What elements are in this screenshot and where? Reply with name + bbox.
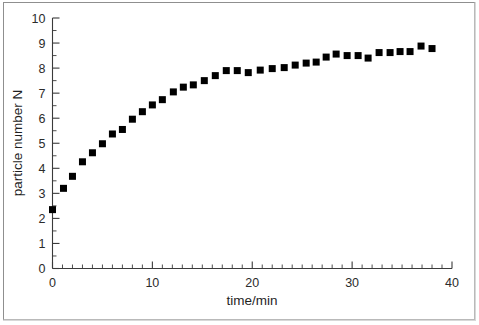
x-tick-label: 0	[49, 276, 56, 290]
x-tick-label: 40	[445, 276, 459, 290]
data-point-marker	[234, 67, 241, 74]
data-point-marker	[139, 108, 146, 115]
y-tick-label: 2	[39, 212, 46, 226]
data-point-marker	[407, 48, 414, 55]
data-point-marker	[355, 52, 362, 59]
data-point-marker	[387, 49, 394, 56]
data-point-marker	[223, 67, 230, 74]
data-point-marker	[281, 64, 288, 71]
y-tick-label: 8	[39, 62, 46, 76]
y-tick-label: 5	[39, 137, 46, 151]
data-point-marker	[190, 81, 197, 88]
data-point-marker	[201, 77, 208, 84]
data-point-marker	[60, 185, 67, 192]
data-point-marker	[69, 173, 76, 180]
data-point-marker	[313, 59, 320, 66]
y-tick-label: 0	[39, 262, 46, 276]
scatter-plot-svg: 012345678910 010203040 time/min particle…	[0, 0, 479, 325]
y-tick-label: 9	[39, 37, 46, 51]
x-tick-label: 10	[145, 276, 159, 290]
data-point-marker	[129, 116, 136, 123]
data-point-marker	[365, 55, 372, 62]
data-point-marker	[245, 69, 252, 76]
data-point-marker	[429, 45, 436, 52]
data-point-marker	[303, 60, 310, 67]
data-point-marker	[49, 206, 56, 213]
y-tick-label: 6	[39, 112, 46, 126]
data-point-marker	[89, 149, 96, 156]
y-tick-label: 4	[39, 162, 46, 176]
data-point-marker	[333, 51, 340, 58]
data-point-marker	[159, 96, 166, 103]
data-point-marker	[323, 54, 330, 61]
data-point-marker	[212, 72, 219, 79]
y-axis: 012345678910	[32, 12, 60, 277]
data-point-series	[49, 43, 436, 214]
data-point-marker	[376, 49, 383, 56]
data-point-marker	[397, 48, 404, 55]
x-axis-title: time/min	[226, 293, 277, 308]
data-point-marker	[344, 52, 351, 59]
data-point-marker	[269, 65, 276, 72]
data-point-marker	[170, 88, 177, 95]
chart-canvas: 012345678910 010203040 time/min particle…	[0, 0, 479, 325]
data-point-marker	[109, 130, 116, 137]
y-axis-title: particle number N	[10, 90, 25, 197]
figure-page: 012345678910 010203040 time/min particle…	[0, 0, 479, 325]
data-point-marker	[292, 62, 299, 69]
y-tick-label: 1	[39, 237, 46, 251]
y-tick-label: 7	[39, 87, 46, 101]
y-tick-label: 10	[32, 12, 46, 26]
data-point-marker	[180, 84, 187, 91]
data-point-marker	[119, 126, 126, 133]
x-axis: 010203040	[49, 262, 459, 290]
data-point-marker	[257, 67, 264, 74]
x-tick-label: 20	[245, 276, 259, 290]
data-point-marker	[79, 158, 86, 165]
data-point-marker	[149, 101, 156, 108]
y-axis-tick-labels: 012345678910	[32, 12, 46, 277]
data-point-marker	[418, 43, 425, 50]
x-tick-label: 30	[345, 276, 359, 290]
data-point-marker	[99, 140, 106, 147]
y-tick-label: 3	[39, 187, 46, 201]
x-axis-tick-labels: 010203040	[49, 276, 459, 290]
